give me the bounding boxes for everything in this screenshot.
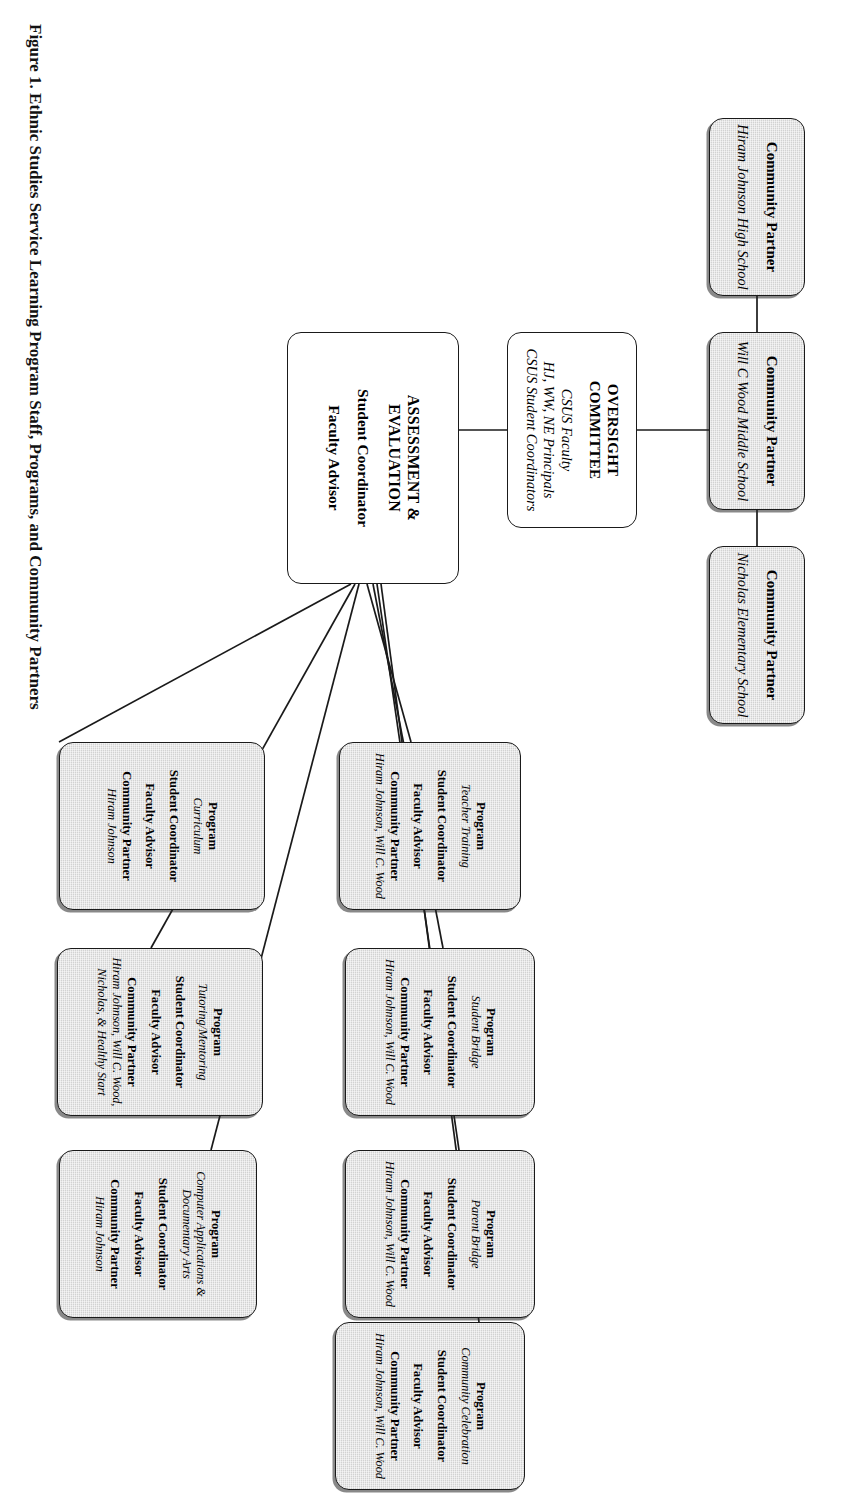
program-label: Program bbox=[473, 802, 488, 850]
oversight-member-csus-faculty: CSUS Faculty bbox=[557, 389, 574, 472]
program-label: Program bbox=[210, 1008, 225, 1056]
student-coordinator-label: Student Coordinator bbox=[435, 1350, 450, 1462]
program-label: Program bbox=[205, 802, 220, 850]
community-partner-will-c-wood-middle-school[interactable]: Community Partner Will C Wood Middle Sch… bbox=[709, 332, 805, 510]
oversight-title-line1: OVERSIGHT bbox=[603, 384, 621, 477]
program-name: Parent Bridge bbox=[468, 1200, 482, 1269]
community-partner-label: Community Partner bbox=[108, 1179, 123, 1288]
student-coordinator-label: Student Coordinator bbox=[167, 770, 182, 882]
org-chart: Community Partner Hiram Johnson High Sch… bbox=[0, 0, 851, 1506]
community-partner-value: Hiram Johnson, Will C. Wood, Nicholas, &… bbox=[95, 955, 124, 1109]
community-partner-label: Community Partner bbox=[119, 771, 134, 880]
community-partner-value: Hiram Johnson, Will C. Wood bbox=[372, 753, 386, 899]
community-partner-label: Community Partner bbox=[124, 977, 139, 1086]
oversight-member-principals: HJ, WW, NE Principals bbox=[540, 362, 557, 499]
student-coordinator-label: Student Coordinator bbox=[445, 1178, 460, 1290]
community-partner-value: Hiram Johnson bbox=[93, 1196, 107, 1272]
program-label: Program bbox=[473, 1382, 488, 1430]
student-coordinator-label: Student Coordinator bbox=[445, 976, 460, 1088]
program-label: Program bbox=[483, 1210, 498, 1258]
program-card-community-celebration[interactable]: Program Community Celebration Student Co… bbox=[335, 1322, 525, 1490]
assessment-and-evaluation-node[interactable]: ASSESSMENT & EVALUATION Student Coordina… bbox=[287, 332, 459, 584]
community-partner-name: Nicholas Elementary School bbox=[734, 552, 751, 717]
student-coordinator-label: Student Coordinator bbox=[435, 770, 450, 882]
community-partner-label: Community Partner bbox=[762, 142, 780, 272]
faculty-advisor-label: Faculty Advisor bbox=[411, 1363, 426, 1449]
community-partner-label: Community Partner bbox=[397, 977, 412, 1086]
program-name: Curriculum bbox=[190, 798, 204, 855]
oversight-committee-node[interactable]: OVERSIGHT COMMITTEE CSUS Faculty HJ, WW,… bbox=[507, 332, 637, 528]
oversight-member-student-coordinators: CSUS Student Coordinators bbox=[523, 348, 540, 511]
connector-assessment-to-curriculum bbox=[59, 584, 351, 742]
connector-assessment-to-teacher bbox=[367, 584, 411, 742]
faculty-advisor-label: Faculty Advisor bbox=[143, 783, 158, 869]
program-name: Computer Applications & Documentary Arts bbox=[179, 1157, 208, 1311]
assessment-title: ASSESSMENT & EVALUATION bbox=[384, 343, 422, 573]
community-partner-label: Community Partner bbox=[397, 1179, 412, 1288]
faculty-advisor-label: Faculty Advisor bbox=[421, 1191, 436, 1277]
community-partner-label: Community Partner bbox=[762, 356, 780, 486]
faculty-advisor-label: Faculty Advisor bbox=[411, 783, 426, 869]
faculty-advisor-label: Faculty Advisor bbox=[148, 989, 163, 1075]
program-name: Student Bridge bbox=[468, 996, 482, 1069]
community-partner-hiram-johnson-high-school[interactable]: Community Partner Hiram Johnson High Sch… bbox=[709, 118, 805, 296]
oversight-title-line2: COMMITTEE bbox=[585, 381, 603, 479]
community-partner-value: Hiram Johnson bbox=[104, 788, 118, 864]
student-coordinator-label: Student Coordinator bbox=[172, 976, 187, 1088]
student-coordinator-label: Student Coordinator bbox=[155, 1178, 170, 1290]
program-card-tutoring-mentoring[interactable]: Program Tutoring/Mentoring Student Coord… bbox=[57, 948, 263, 1116]
program-name: Community Celebration bbox=[458, 1347, 472, 1464]
program-card-teacher-training[interactable]: Program Teacher Training Student Coordin… bbox=[339, 742, 521, 910]
community-partner-name: Hiram Johnson High School bbox=[734, 124, 751, 290]
program-card-curriculum[interactable]: Program Curriculum Student Coordinator F… bbox=[59, 742, 265, 910]
community-partner-label: Community Partner bbox=[387, 771, 402, 880]
community-partner-label: Community Partner bbox=[387, 1351, 402, 1460]
program-label: Program bbox=[483, 1008, 498, 1056]
figure-canvas: Community Partner Hiram Johnson High Sch… bbox=[0, 0, 851, 1506]
program-card-computer-applications-documentary-arts[interactable]: Program Computer Applications & Document… bbox=[59, 1150, 257, 1318]
community-partner-value: Hiram Johnson, Will C. Wood bbox=[382, 959, 396, 1105]
community-partner-value: Hiram Johnson, Will C. Wood bbox=[372, 1333, 386, 1479]
community-partner-nicholas-elementary-school[interactable]: Community Partner Nicholas Elementary Sc… bbox=[709, 546, 805, 724]
assessment-role-faculty-advisor: Faculty Advisor bbox=[324, 405, 342, 511]
program-card-parent-bridge[interactable]: Program Parent Bridge Student Coordinato… bbox=[345, 1150, 535, 1318]
program-name: Tutoring/Mentoring bbox=[196, 984, 210, 1081]
program-card-student-bridge[interactable]: Program Student Bridge Student Coordinat… bbox=[345, 948, 535, 1116]
faculty-advisor-label: Faculty Advisor bbox=[131, 1191, 146, 1277]
figure-caption: Figure 1. Ethnic Studies Service Learnin… bbox=[25, 24, 45, 1494]
community-partner-value: Hiram Johnson, Will C. Wood bbox=[382, 1161, 396, 1307]
community-partner-name: Will C Wood Middle School bbox=[734, 341, 751, 502]
program-name: Teacher Training bbox=[458, 784, 472, 868]
program-label: Program bbox=[208, 1210, 223, 1258]
community-partner-label: Community Partner bbox=[762, 570, 780, 700]
faculty-advisor-label: Faculty Advisor bbox=[421, 989, 436, 1075]
assessment-role-student-coordinator: Student Coordinator bbox=[354, 389, 372, 527]
